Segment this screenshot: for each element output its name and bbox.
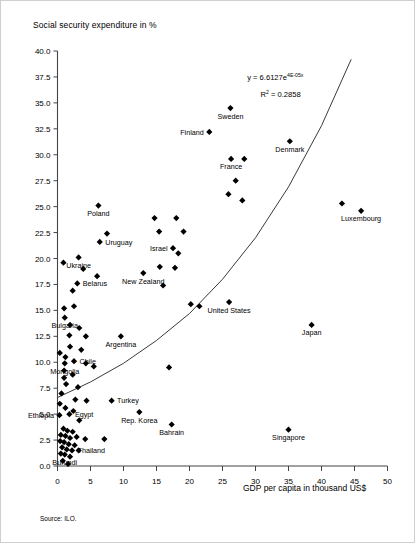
data-point-marker — [285, 427, 291, 433]
data-point-marker — [227, 105, 233, 111]
x-tick-label: 20 — [185, 477, 194, 486]
y-tick-label: 0.0 — [39, 462, 51, 471]
trendline — [58, 59, 352, 397]
x-tick-label: 30 — [251, 477, 260, 486]
trendline-equation: y = 6.6127e4E-05x — [247, 72, 304, 82]
data-point-marker — [58, 432, 64, 438]
y-tick-label: 25.0 — [35, 203, 51, 212]
data-point-marker — [76, 254, 82, 260]
data-point-marker — [358, 208, 364, 214]
data-point-marker — [136, 409, 142, 415]
data-point-marker — [83, 398, 89, 404]
x-tick-label: 50 — [383, 477, 392, 486]
data-point-marker — [188, 301, 194, 307]
y-tick-label: 37.5 — [35, 73, 51, 82]
data-point-marker — [339, 200, 345, 206]
data-point-marker — [62, 315, 68, 321]
data-point-marker — [309, 322, 315, 328]
data-point-marker — [71, 303, 77, 309]
data-point-marker — [74, 434, 80, 440]
data-point-marker — [206, 129, 212, 135]
y-tick-label: 7.5 — [39, 384, 51, 393]
data-point-label: Argentina — [105, 340, 136, 349]
data-point-label: Turkey — [117, 396, 139, 405]
data-point-label: Egypt — [75, 410, 93, 419]
data-point-marker — [233, 178, 239, 184]
data-point-label: Thailand — [78, 446, 106, 455]
x-tick-label: 0 — [55, 477, 60, 486]
x-tick-label: 15 — [152, 477, 161, 486]
data-point-marker — [61, 305, 67, 311]
data-point-marker — [166, 364, 172, 370]
data-point-label: Ukraine — [66, 261, 91, 270]
data-point-marker — [109, 398, 115, 404]
data-point-marker — [58, 390, 64, 396]
data-point-marker — [241, 156, 247, 162]
data-point-marker — [101, 436, 107, 442]
data-point-marker — [70, 288, 76, 294]
data-point-label: Luxembourg — [341, 214, 381, 223]
data-point-marker — [97, 239, 103, 245]
data-point-label: New Zealand — [122, 277, 164, 286]
data-point-marker — [225, 191, 231, 197]
y-tick-label: 30.0 — [35, 151, 51, 160]
y-tick-label: 32.5 — [35, 125, 51, 134]
data-point-label: United States — [208, 306, 252, 315]
data-point-label: Finland — [180, 128, 204, 137]
data-point-marker — [66, 332, 72, 338]
x-axis-ticks: 05101520253035404550 — [55, 466, 392, 486]
data-point-marker — [67, 344, 73, 350]
y-tick-label: 2.5 — [39, 436, 51, 445]
data-point-label: Ethiopia — [28, 411, 54, 420]
y-axis-ticks: 0.02.55.07.510.012.515.017.520.022.525.0… — [35, 47, 58, 471]
x-tick-label: 5 — [88, 477, 93, 486]
data-point-label: Israel — [150, 244, 168, 253]
data-point-marker — [169, 421, 175, 427]
data-point-marker — [140, 270, 146, 276]
data-point-marker — [82, 436, 88, 442]
data-point-marker — [62, 360, 68, 366]
y-tick-label: 20.0 — [35, 255, 51, 264]
data-point-marker — [196, 303, 202, 309]
data-point-marker — [172, 265, 178, 271]
y-tick-label: 12.5 — [35, 332, 51, 341]
data-point-marker — [83, 333, 89, 339]
data-point-marker — [151, 215, 157, 221]
x-tick-label: 25 — [218, 477, 227, 486]
y-tick-label: 35.0 — [35, 99, 51, 108]
data-point-marker — [74, 280, 80, 286]
data-point-label: Chile — [80, 357, 96, 366]
scatter-chart-figure: Social security expenditure in % GDP per… — [0, 0, 416, 544]
data-point-marker — [180, 228, 186, 234]
data-point-marker — [69, 447, 75, 453]
x-tick-label: 40 — [317, 477, 326, 486]
data-point-label: Bulgaria — [52, 321, 78, 330]
data-point-label: Singapore — [272, 433, 305, 442]
data-point-label: Sweden — [217, 112, 243, 121]
y-tick-label: 27.5 — [35, 177, 51, 186]
data-point-labels: SwedenFinlandDenmarkFranceLuxembourgPola… — [28, 112, 381, 468]
data-point-marker — [95, 202, 101, 208]
data-point-marker — [239, 197, 245, 203]
data-point-marker — [63, 381, 69, 387]
data-point-label: Japan — [302, 328, 322, 337]
data-point-label: Burundi — [52, 458, 77, 467]
data-point-label: Rep. Korea — [121, 416, 157, 425]
data-point-label: Bahrain — [159, 428, 184, 437]
data-point-marker — [104, 231, 110, 237]
y-tick-label: 10.0 — [35, 358, 51, 367]
data-point-label: Mongolia — [50, 367, 79, 376]
y-tick-label: 22.5 — [35, 229, 51, 238]
y-tick-label: 15.0 — [35, 306, 51, 315]
x-tick-label: 10 — [119, 477, 128, 486]
data-point-label: Denmark — [275, 145, 305, 154]
plot-area: 0.02.55.07.510.012.515.017.520.022.525.0… — [0, 0, 416, 544]
data-point-marker — [156, 228, 162, 234]
data-point-label: Uruguay — [105, 238, 133, 247]
data-point-marker — [71, 358, 77, 364]
data-point-marker — [62, 405, 68, 411]
data-point-marker — [72, 397, 78, 403]
data-point-marker — [70, 429, 76, 435]
x-tick-label: 45 — [350, 477, 359, 486]
data-point-marker — [287, 138, 293, 144]
